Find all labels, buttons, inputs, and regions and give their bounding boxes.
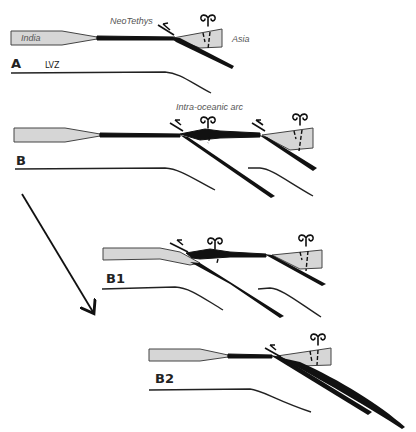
volcano-icon <box>311 334 325 345</box>
lvz-boundary-b1 <box>102 287 223 310</box>
volcano-icon <box>201 15 215 26</box>
dyke <box>317 350 318 365</box>
label-intra-oceanic-arc: Intra-oceanic arc <box>176 102 244 112</box>
panel-label-b1: B1 <box>106 271 125 286</box>
thrust-arrow <box>270 345 276 350</box>
arc-plate-b1 <box>186 249 266 259</box>
panel-b1: B1 <box>102 235 326 318</box>
dyke <box>217 259 218 263</box>
lvz-boundary-b <box>15 168 215 190</box>
india-plate <box>14 128 100 142</box>
neotethys-ocean <box>97 36 175 40</box>
volcano-icon <box>293 114 307 125</box>
neotethys-ocean-b2 <box>228 354 272 358</box>
volcano-icon <box>201 117 215 128</box>
lvz-boundary-a <box>11 72 211 93</box>
panel-label-a: A <box>11 56 21 71</box>
thrust-arrow <box>177 240 183 245</box>
label-india: India <box>21 33 41 43</box>
volcano-icon <box>299 235 313 246</box>
label-lvz: LVZ <box>45 61 60 70</box>
label-asia: Asia <box>231 34 250 44</box>
panel-b: Intra-oceanic arc B <box>14 102 317 198</box>
panel-b2: B2 <box>149 334 405 429</box>
panel-label-b: B <box>16 153 26 168</box>
label-neotethys: NeoTethys <box>110 16 153 26</box>
arc-plate-b <box>180 129 260 140</box>
lvz-boundary-b-east <box>248 168 313 196</box>
panel-label-b2: B2 <box>155 371 174 386</box>
slab-b-west <box>180 135 275 198</box>
progression-arrow <box>22 194 93 312</box>
lvz-boundary-b2 <box>149 389 311 412</box>
slab-b1-west <box>190 262 284 318</box>
lvz-boundary-b1-east <box>258 288 321 317</box>
panel-a: India Asia NeoTethys A LVZ <box>11 15 250 93</box>
volcano-icon <box>208 238 222 249</box>
neotethys-ocean-b <box>100 133 180 137</box>
thrust-arrow <box>175 120 181 125</box>
tectonic-diagram: India Asia NeoTethys A LVZ Intra-oceanic… <box>0 0 416 432</box>
slab-b2-upper <box>282 358 405 429</box>
thrust-arrow <box>256 120 263 125</box>
india-plate <box>149 349 228 361</box>
